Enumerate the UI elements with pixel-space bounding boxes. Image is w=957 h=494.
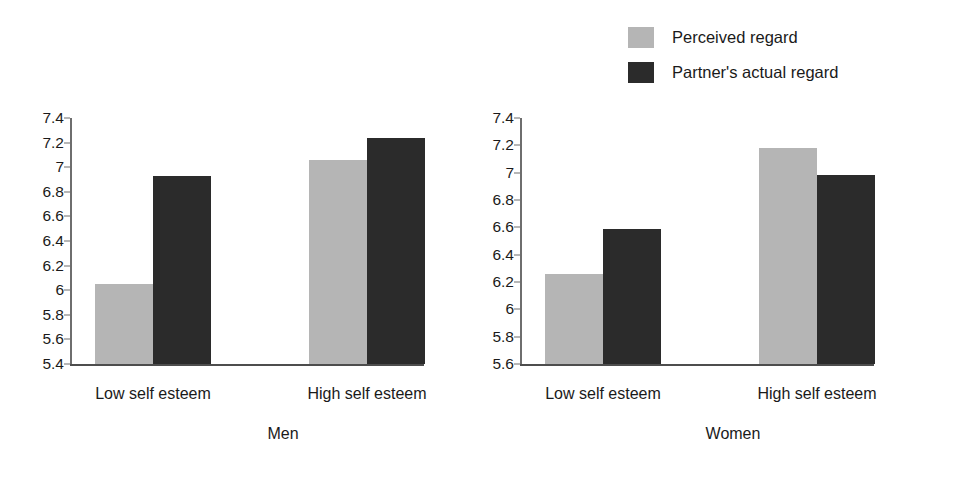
chart-legend: Perceived regard Partner's actual regard	[628, 26, 838, 83]
y-tick-label: 7.4	[492, 110, 514, 126]
x-axis-category-label: High self esteem	[307, 386, 426, 402]
bar-men-low-perceived	[95, 284, 153, 364]
y-tick-label: 5.4	[42, 356, 64, 372]
legend-label-partners-actual-regard: Partner's actual regard	[672, 64, 838, 81]
panel-title-men: Men	[267, 426, 298, 442]
panel-title-women: Women	[706, 426, 761, 442]
y-tick-label: 7	[55, 159, 64, 175]
y-tick-label: 6.8	[492, 192, 514, 208]
x-axis-line	[520, 364, 874, 366]
y-tick-label: 5.6	[42, 332, 64, 348]
bar-women-low-actual	[603, 229, 661, 364]
plot-area-women: 7.47.276.86.66.46.265.85.6Low self estee…	[472, 118, 937, 364]
y-tick-label: 6.2	[42, 258, 64, 274]
y-tick-label: 5.8	[42, 307, 64, 323]
y-axis-women: 7.47.276.86.66.46.265.85.6	[472, 118, 514, 364]
y-tick-label: 6.8	[42, 184, 64, 200]
y-axis-men: 7.47.276.86.66.46.265.85.65.4	[22, 118, 64, 364]
legend-item-partners-actual-regard: Partner's actual regard	[628, 61, 838, 83]
legend-item-perceived-regard: Perceived regard	[628, 26, 838, 48]
legend-swatch-perceived-regard	[628, 27, 654, 48]
x-axis-category-label: Low self esteem	[95, 386, 211, 402]
y-tick-label: 7.4	[42, 110, 64, 126]
legend-swatch-partners-actual-regard	[628, 62, 654, 83]
bar-women-high-actual	[817, 175, 875, 364]
bars-men	[71, 118, 487, 364]
bar-men-low-actual	[153, 176, 211, 364]
y-tick-label: 6.2	[492, 274, 514, 290]
y-tick-label: 5.8	[492, 329, 514, 345]
bar-women-high-perceived	[759, 148, 817, 364]
y-tick-label: 6.6	[42, 209, 64, 225]
x-axis-category-label: Low self esteem	[545, 386, 661, 402]
y-tick-label: 6	[55, 282, 64, 298]
y-tick-label: 5.6	[492, 356, 514, 372]
bars-women	[521, 118, 937, 364]
bar-women-low-perceived	[545, 274, 603, 364]
x-axis-category-label: High self esteem	[757, 386, 876, 402]
panel-men: 7.47.276.86.66.46.265.85.65.4Low self es…	[22, 118, 487, 364]
plot-area-men: 7.47.276.86.66.46.265.85.65.4Low self es…	[22, 118, 487, 364]
y-tick-label: 6.6	[492, 220, 514, 236]
bar-men-high-actual	[367, 138, 425, 364]
y-tick-label: 6.4	[492, 247, 514, 263]
y-tick-label: 6	[505, 302, 514, 318]
x-axis-line	[70, 364, 424, 366]
y-tick-label: 6.4	[42, 233, 64, 249]
y-tick-label: 7	[505, 165, 514, 181]
y-tick-label: 7.2	[492, 138, 514, 154]
y-tick-label: 7.2	[42, 135, 64, 151]
panel-women: 7.47.276.86.66.46.265.85.6Low self estee…	[472, 118, 937, 364]
legend-label-perceived-regard: Perceived regard	[672, 29, 798, 46]
bar-men-high-perceived	[309, 160, 367, 364]
